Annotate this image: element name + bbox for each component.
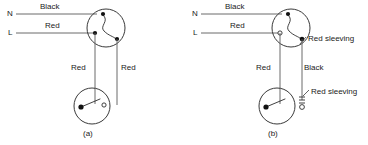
top-switch-mechanism-b [288, 15, 301, 39]
bottom-switch-common-terminal-b [263, 104, 268, 109]
bottom-switch-lever-b [266, 99, 285, 107]
live-terminal-label-a: L [8, 29, 12, 37]
strapper-left-label-b: Red [256, 64, 271, 72]
strapper-left-label-a: Red [71, 64, 86, 72]
top-sleeving-label-b: Red sleeving [308, 35, 354, 43]
bottom-switch-l1-terminal-a [102, 103, 106, 107]
wiring-diagram-figure: N Black L Red Red Red (a) N Black L Red … [0, 0, 368, 145]
top-switch-mechanism-a [103, 15, 116, 39]
bottom-sleeving-leader-b [303, 90, 309, 96]
live-wire-label-a: Red [45, 22, 60, 30]
top-switch-common-terminal-a [101, 12, 105, 16]
live-terminal-label-b: L [193, 29, 197, 37]
caption-a: (a) [83, 130, 93, 138]
top-switch-body-a [87, 9, 125, 47]
bottom-sleeving-label-b: Red sleeving [311, 88, 357, 96]
top-switch-common-terminal-b [286, 12, 290, 16]
bottom-switch-l1-terminal-b [300, 105, 305, 110]
neutral-wire-label-a: Black [40, 3, 60, 11]
bottom-switch-common-terminal-a [78, 104, 83, 109]
bottom-switch-lever-a [81, 99, 100, 107]
strapper-right-label-a: Red [121, 64, 136, 72]
neutral-terminal-label-b: N [192, 10, 198, 18]
caption-b: (b) [268, 130, 278, 138]
strapper-right-label-b: Black [304, 64, 324, 72]
top-switch-body-b [272, 9, 310, 47]
neutral-terminal-label-a: N [7, 10, 13, 18]
live-wire-label-b: Red [230, 22, 245, 30]
neutral-wire-label-b: Black [225, 3, 245, 11]
